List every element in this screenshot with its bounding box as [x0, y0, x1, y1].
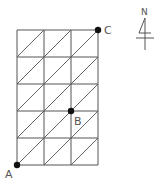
label-b: B [74, 115, 82, 128]
point-b [68, 108, 74, 114]
grid-diagram: A B C N [0, 0, 167, 183]
north-arrow-icon: N [136, 7, 154, 50]
diagonal-lines [17, 30, 98, 165]
label-a: A [5, 168, 13, 181]
label-c: C [104, 24, 112, 37]
point-a [14, 162, 20, 168]
point-c [95, 27, 101, 33]
north-label: N [141, 7, 148, 17]
